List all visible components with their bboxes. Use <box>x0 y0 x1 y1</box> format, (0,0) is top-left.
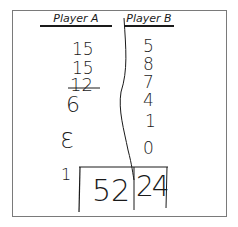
player-b-score-1: 5 <box>143 38 154 55</box>
player-a-score-1: 15 <box>72 41 94 58</box>
player-a-score-6: 1 <box>61 166 71 183</box>
player-a-total: 52 <box>92 176 130 206</box>
player-b-score-2: 8 <box>143 56 154 73</box>
player-b-score-5: 1 <box>145 113 156 130</box>
player-b-score-6: 0 <box>143 140 154 157</box>
player-b-score-3: 7 <box>143 74 154 91</box>
player-a-score-5: 3 <box>60 132 74 149</box>
player-b-total: 24 <box>136 172 168 202</box>
player-b-header: Player B <box>124 12 174 27</box>
player-a-score-3: 12 <box>70 76 93 93</box>
player-a-header: Player A <box>40 12 112 27</box>
player-b-score-4: 4 <box>143 92 154 109</box>
player-a-score-4: 6 <box>66 96 80 113</box>
